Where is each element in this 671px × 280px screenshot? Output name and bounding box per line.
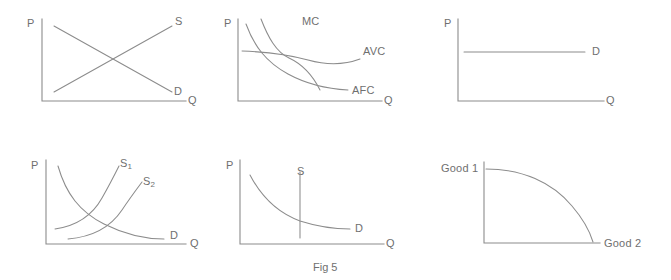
panel-3-axes (458, 19, 604, 101)
panel-5-y-axis-label: P (226, 160, 234, 171)
panel-2-afc-curve-label: AFC (352, 85, 375, 96)
panel-5-supply-curve-label: S (297, 166, 305, 177)
panel-6-curve-ppf (486, 169, 593, 242)
panel-2-mc-curve-label: MC (302, 16, 320, 27)
panel-3-demand-curve-label: D (592, 46, 600, 57)
panel-4-supply2-curve-label: S2 (143, 176, 155, 190)
panel-4-curve-supply-1 (55, 166, 119, 229)
figure-container: P Q S D P Q MC AVC AFC P Q D P Q S1 S2 D… (0, 0, 671, 280)
panel-4-curve-supply-2 (68, 182, 142, 239)
panel-5-demand-curve-label: D (355, 223, 363, 234)
panel-4-y-axis-label: P (31, 160, 39, 171)
panel-1-supply-curve-label: S (175, 16, 183, 27)
panel-2-y-axis-label: P (224, 18, 232, 29)
panel-2-curve-avc (242, 51, 360, 64)
panel-2-curve-mc (261, 19, 320, 90)
panel-6-y-axis-label: Good 1 (441, 163, 478, 174)
panel-2-avc-curve-label: AVC (363, 46, 385, 57)
panel-4-supply2-base: S (143, 175, 151, 187)
panel-1-y-axis-label: P (27, 18, 35, 29)
panel-4-supply2-subscript: 2 (151, 180, 155, 189)
figure-caption: Fig 5 (313, 262, 337, 273)
panel-4-supply1-curve-label: S1 (120, 158, 132, 172)
panel-4-demand-curve-label: D (170, 230, 178, 241)
panel-4-supply1-subscript: 1 (128, 162, 132, 171)
panel-1-demand-curve-label: D (174, 86, 182, 97)
panel-6-axes (484, 162, 600, 243)
panel-1-x-axis-label: Q (188, 95, 197, 106)
panel-5-x-axis-label: Q (386, 238, 395, 249)
panel-3-x-axis-label: Q (606, 95, 615, 106)
panel-4-supply1-base: S (120, 157, 128, 169)
panel-6-x-axis-label: Good 2 (604, 238, 641, 249)
figure-vector-layer (0, 0, 671, 280)
panel-2-x-axis-label: Q (384, 95, 393, 106)
panel-4-x-axis-label: Q (190, 238, 199, 249)
panel-3-y-axis-label: P (444, 18, 452, 29)
